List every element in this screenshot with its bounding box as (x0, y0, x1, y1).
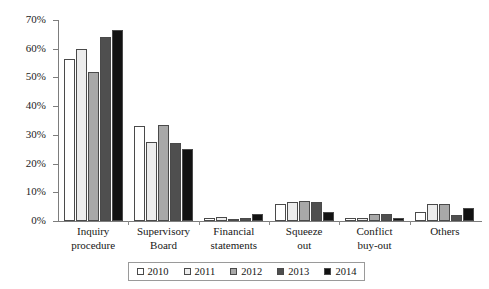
x-axis-group-separator (128, 221, 129, 225)
x-axis-line (58, 221, 482, 222)
bar-2013 (100, 37, 111, 221)
y-axis-tick-label: 20% (26, 158, 46, 169)
chart-legend: 20102011201220132014 (128, 262, 365, 281)
bar-2011 (76, 49, 87, 221)
category-label-line: Inquiry (58, 225, 128, 239)
x-axis-category-label: Others (410, 225, 480, 239)
x-axis-category-label: Inquiryprocedure (58, 225, 128, 252)
bar-2011 (146, 142, 157, 221)
category-label-line: Supervisory (128, 225, 198, 239)
bar-2010 (64, 59, 75, 221)
category-label-line: Board (128, 239, 198, 253)
bar-2013 (170, 143, 181, 221)
plot-area (58, 20, 480, 221)
y-axis-tick-label: 10% (26, 186, 46, 197)
x-axis-group-separator (410, 221, 411, 225)
legend-label: 2014 (335, 266, 356, 277)
x-axis-category-label: Conflictbuy-out (339, 225, 409, 252)
bar-2014 (252, 214, 263, 221)
y-axis-tick-label: 0% (31, 215, 46, 226)
category-label-line: statements (199, 239, 269, 253)
x-axis-group-separator (269, 221, 270, 225)
bar-2012 (369, 214, 380, 221)
bar-2010 (134, 126, 145, 221)
category-label-line: Squeeze (269, 225, 339, 239)
legend-swatch-icon (324, 268, 331, 275)
bar-2010 (415, 212, 426, 221)
bar-chart: 70%60%50%40%30%20%10%0% Inquiryprocedure… (0, 0, 489, 289)
y-axis-tick-label: 50% (26, 71, 46, 82)
legend-label: 2010 (148, 266, 169, 277)
category-label-line: procedure (58, 239, 128, 253)
legend-label: 2012 (241, 266, 262, 277)
bar-2011 (427, 204, 438, 221)
bar-2011 (287, 202, 298, 221)
bar-2010 (275, 204, 286, 221)
bar-2012 (299, 201, 310, 221)
bar-2013 (451, 215, 462, 221)
bar-2012 (439, 204, 450, 221)
legend-swatch-icon (184, 268, 191, 275)
category-label-line: Conflict (339, 225, 409, 239)
bar-2013 (311, 202, 322, 221)
category-label-line: buy-out (339, 239, 409, 253)
bar-2014 (323, 212, 334, 221)
legend-label: 2011 (195, 266, 216, 277)
y-axis-tick-label: 60% (26, 43, 46, 54)
bar-2012 (158, 125, 169, 221)
legend-item-2010[interactable]: 2010 (137, 266, 169, 277)
bar-group (128, 20, 198, 221)
bar-2012 (228, 219, 239, 221)
bar-group (58, 20, 128, 221)
y-axis-tick-label: 30% (26, 129, 46, 140)
category-label-line: Financial (199, 225, 269, 239)
bar-2014 (393, 218, 404, 221)
category-label-line: out (269, 239, 339, 253)
x-axis-category-label: Squeezeout (269, 225, 339, 252)
legend-item-2011[interactable]: 2011 (184, 266, 216, 277)
legend-label: 2013 (288, 266, 309, 277)
y-axis-tick (53, 221, 58, 222)
bar-2014 (463, 208, 474, 221)
bar-2010 (204, 218, 215, 221)
bar-2013 (240, 218, 251, 221)
legend-item-2013[interactable]: 2013 (277, 266, 309, 277)
bar-group (269, 20, 339, 221)
bar-2012 (88, 72, 99, 221)
bar-2014 (182, 149, 193, 221)
x-axis-category-label: SupervisoryBoard (128, 225, 198, 252)
x-axis-group-separator (339, 221, 340, 225)
bar-2011 (216, 217, 227, 221)
category-label-line: Others (410, 225, 480, 239)
legend-item-2014[interactable]: 2014 (324, 266, 356, 277)
legend-swatch-icon (137, 268, 144, 275)
bar-2014 (112, 30, 123, 221)
y-axis-labels: 70%60%50%40%30%20%10%0% (0, 20, 46, 221)
x-axis-group-separator (199, 221, 200, 225)
bar-group (199, 20, 269, 221)
bar-group (339, 20, 409, 221)
y-axis-tick-label: 70% (26, 14, 46, 25)
bar-2011 (357, 218, 368, 221)
legend-item-2012[interactable]: 2012 (230, 266, 262, 277)
y-axis-tick-label: 40% (26, 100, 46, 111)
legend-swatch-icon (277, 268, 284, 275)
bar-2010 (345, 218, 356, 221)
legend-swatch-icon (230, 268, 237, 275)
bar-2013 (381, 214, 392, 221)
x-axis-category-label: Financialstatements (199, 225, 269, 252)
bar-group (410, 20, 480, 221)
